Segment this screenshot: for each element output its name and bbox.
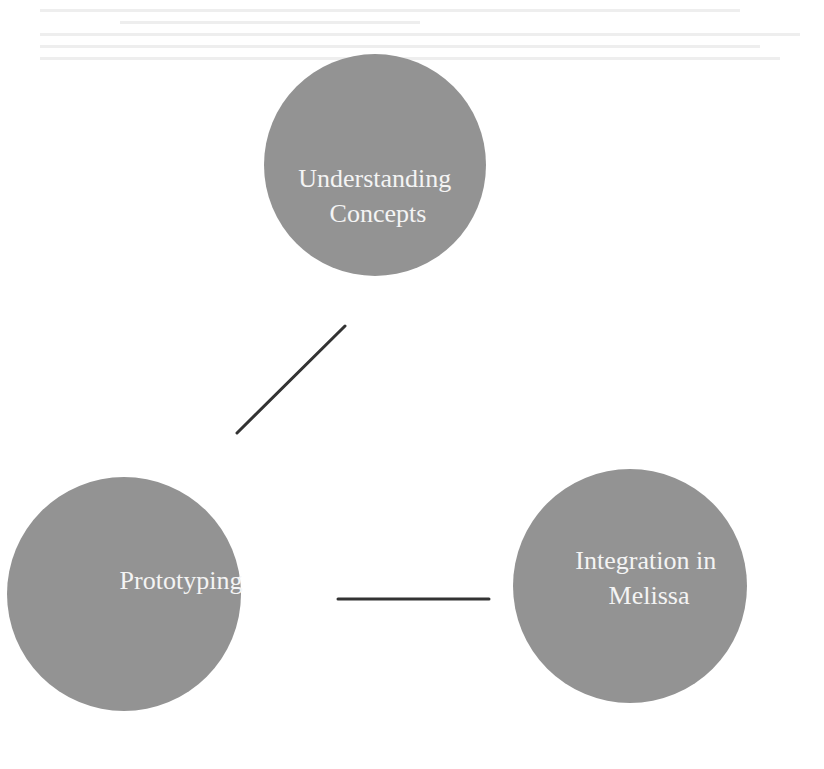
svg-text:Prototyping: Prototyping: [120, 566, 243, 595]
node-label-line: Integration in: [575, 546, 716, 575]
node-understanding-concepts: Understanding Concepts: [264, 54, 486, 276]
connector-understanding-prototyping: [237, 326, 345, 433]
node-label-line: Understanding: [298, 164, 451, 193]
node-label-line: Concepts: [330, 199, 427, 228]
process-diagram: Understanding Concepts Prototyping Integ…: [0, 0, 824, 769]
node-label-line: Melissa: [609, 581, 690, 610]
node-prototyping: Prototyping: [7, 477, 242, 711]
node-label-line: Prototyping: [120, 566, 243, 595]
node-integration-in-melissa: Integration in Melissa: [513, 469, 747, 703]
